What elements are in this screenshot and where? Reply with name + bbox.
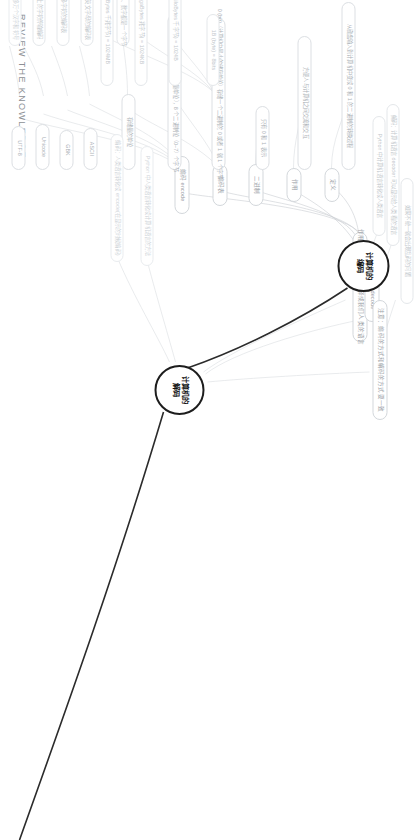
detail-utf8[interactable]: UTF-8 bbox=[11, 126, 25, 170]
decode-detail-mismatch[interactable]: 如果不统一就会出现乱码的问题 bbox=[400, 178, 413, 304]
detail-ascii[interactable]: ASCII bbox=[83, 128, 97, 170]
storage-unit-gb[interactable]: 1GB (GigaBytes 千兆字节) = 1024MB bbox=[100, 0, 113, 86]
root-node-encode-label: 计算机的 编码 bbox=[354, 252, 371, 281]
decode-detail-encode-note[interactable]: 编码：人类语言转化成 encode(在显示的时候编码) bbox=[110, 134, 123, 262]
charset-detail-gbk[interactable]: 主要用于汉字及英文字母的编码表 bbox=[80, 0, 93, 46]
decode-detail-decode[interactable]: 解码：计算机语言 decoder 可以显示给人类看的语言 bbox=[386, 104, 399, 246]
storage-unit-kb[interactable]: 1KB (KiloBytes 千字节) = 1024B bbox=[168, 0, 181, 86]
charset-detail-unicode[interactable]: 涵盖最多字符的编码表 bbox=[56, 0, 69, 46]
root-node-encode[interactable]: 计算机的 编码 bbox=[337, 240, 389, 292]
mindmap-stage: REVIEW THE KNOWLEDGE 计算机的 编码 计算机的 解码 定义 … bbox=[0, 0, 419, 840]
connector-layer bbox=[0, 0, 419, 840]
decode-detail-python[interactable]: Python 中计算机语言转化成人类语言 bbox=[372, 116, 385, 236]
detail-gbk[interactable]: GBK bbox=[59, 130, 73, 170]
detail-purpose[interactable]: 方便人与计算机之间交流和交互 bbox=[297, 36, 311, 170]
detail-binary[interactable]: 只有 0 和 1 表示 bbox=[255, 106, 269, 170]
branch-definition[interactable]: 定义 bbox=[324, 168, 339, 202]
storage-unit-byte[interactable]: 1B (byte) = 8bits bbox=[206, 14, 219, 86]
branch-binary[interactable]: 二进制 bbox=[248, 164, 263, 206]
root-node-decode[interactable]: 计算机的 解码 bbox=[154, 365, 204, 415]
charset-detail-capacity[interactable]: 可以储存 100 多万个汉字和符号 bbox=[8, 0, 21, 46]
detail-definition[interactable]: 从键盘输入到计算机中变成 0 和 1 的二进制的转换过程 bbox=[341, 2, 355, 170]
detail-unicode[interactable]: Unicode bbox=[35, 124, 49, 170]
decode-branch-note[interactable]: 注意：编码的方式和解码的方式要一致 bbox=[372, 300, 387, 420]
branch-purpose[interactable]: 作用 bbox=[286, 168, 301, 202]
mindmap-canvas: REVIEW THE KNOWLEDGE 计算机的 编码 计算机的 解码 定义 … bbox=[0, 0, 419, 840]
root-node-decode-label: 计算机的 解码 bbox=[170, 376, 187, 405]
charset-detail-utf8[interactable]: 主要用于互联网上的字符传输编码 bbox=[32, 0, 45, 46]
charset-detail-ascii[interactable]: 一个英文字母，标点、数字都是一个字节 bbox=[116, 0, 129, 46]
storage-unit-mb[interactable]: 1MB (MegaBytes 兆字节) = 1024KB bbox=[134, 0, 147, 86]
decode-detail-python-encode[interactable]: Python 中人类语言转化成计算机语言的方法 bbox=[140, 146, 153, 266]
